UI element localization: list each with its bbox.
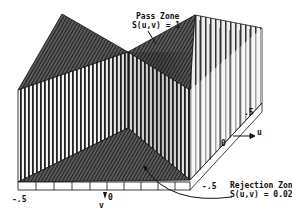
u-axis-arrow: [233, 134, 255, 139]
u-tick-half: .5: [244, 108, 254, 117]
v-axis-marker: [103, 192, 107, 199]
rejection-zone-formula: S(u,v) = 0.02: [230, 190, 292, 199]
rejection-zone-title: Rejection Zone: [230, 181, 292, 190]
right-tick-neg-half: -.5: [202, 182, 216, 191]
v-axis-label: v: [99, 201, 104, 210]
v-tick-left: -.5: [12, 195, 26, 204]
pass-zone-formula: S(u,v) = 1: [132, 21, 180, 30]
u-tick-zero: 0: [221, 139, 226, 148]
u-axis-label: u: [257, 128, 262, 137]
pass-zone-title: Pass Zone: [136, 12, 179, 21]
v-tick-zero: 0: [108, 193, 113, 202]
